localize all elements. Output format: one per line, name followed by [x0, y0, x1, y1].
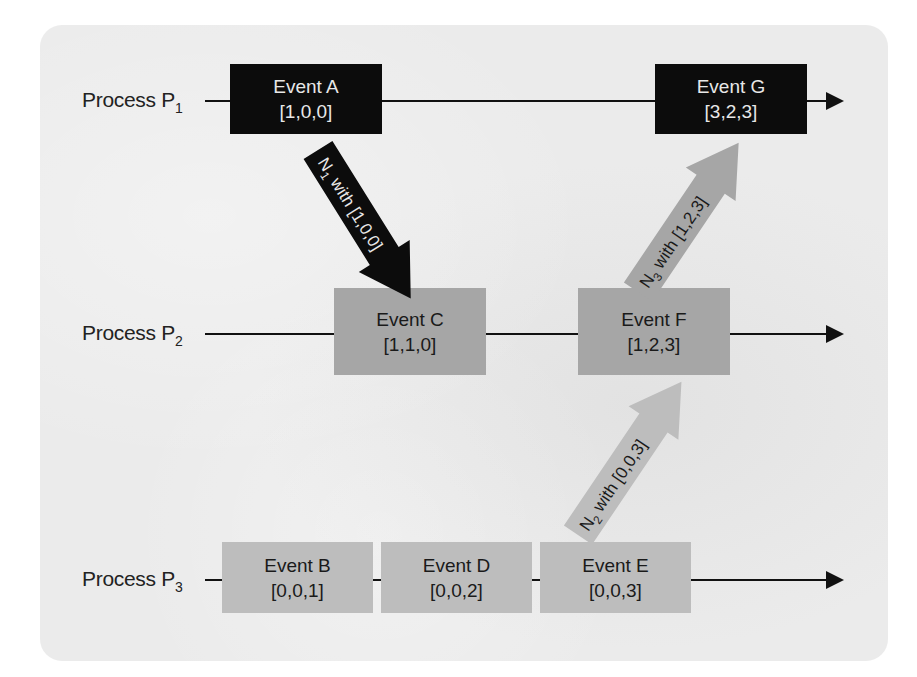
message-n3-arrow[interactable]: N3 with [1,2,3] — [613, 126, 763, 309]
message-arrows: N1 with [1,0,0] N2 with [0,0,3] N3 with … — [0, 0, 917, 677]
message-n2-arrow[interactable]: N2 with [0,0,3] — [553, 365, 706, 552]
message-n1-arrow[interactable]: N1 with [1,0,0] — [293, 134, 437, 314]
